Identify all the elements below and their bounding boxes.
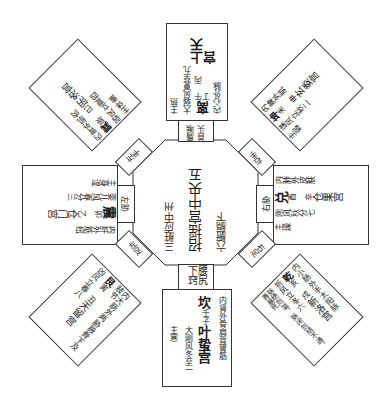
palace-li-south: 内心外脉 离 午 丙 丁 上天宫 大弱风 夏至九 主热 [166,23,228,121]
palace-zhen-east: 内肝外筋纽 震 卯 乙 仓门宫 婴儿风 春分三 主身湿 [22,165,118,245]
nine-palace-diagram: 六腑膈下 招摇宫中央五 三脏应中州 膺喉首头 内心外脉 离 午 丙 丁 上天宫 … [0,0,388,400]
connector-bottom: 腰尻下窍 [178,264,214,290]
center-palace: 六腑膈下 招摇宫中央五 三脏应中州 [140,150,252,258]
connector-top: 膺喉首头 [178,120,214,142]
center-palace-name: 招摇宫中央五 [189,150,203,252]
connector-left: 左胁 [117,185,135,223]
palace-dui-west: 内肺外皮肤 兑 酉 辛 仓果宫 刚风 秋分七 主燥 [273,165,369,245]
connector-right: 右胁 [256,185,274,223]
center-note-organs: 三脏应中州 [165,150,175,252]
center-note-viscera: 六腑膈下 [217,150,227,252]
palace-kan-north: 内肾外骨肩背膂筋 坎 壬子 叶蛰宫 大刚风 冬至一 主寒 [162,289,232,387]
